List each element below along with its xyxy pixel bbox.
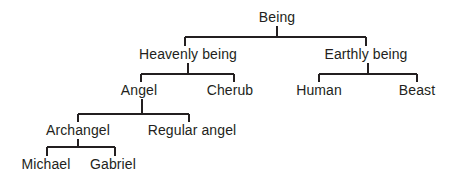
tree-node-regular-angel: Regular angel [148,123,236,138]
tree-node-gabriel: Gabriel [90,157,136,172]
tree-node-heavenly-being: Heavenly being [139,47,237,62]
tree-node-angel: Angel [121,83,157,98]
tree-node-human: Human [296,83,342,98]
tree-node-being: Being [259,10,295,25]
tree-node-michael: Michael [22,157,71,172]
tree-node-beast: Beast [399,83,435,98]
tree-node-archangel: Archangel [46,123,110,138]
hierarchy-tree-diagram: BeingHeavenly beingEarthly beingAngelChe… [0,0,464,190]
tree-node-earthly-being: Earthly being [324,47,407,62]
tree-node-cherub: Cherub [207,83,254,98]
